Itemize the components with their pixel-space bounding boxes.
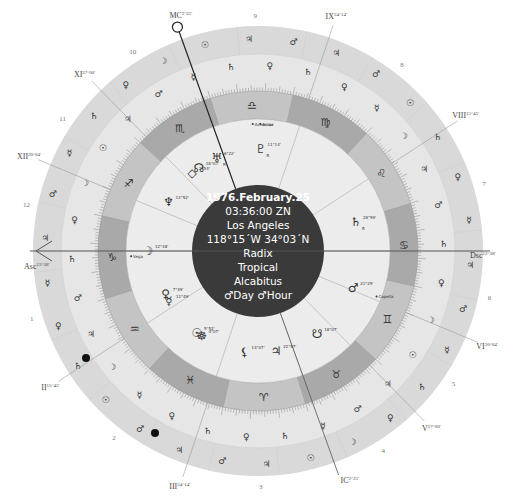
planet-degree: 11°14' — [268, 142, 281, 147]
planet-degree: 12°38' — [155, 244, 168, 249]
outer-ring-glyph-icon: ♀ — [243, 432, 250, 442]
outer-ring-glyph-icon: ☿ — [45, 278, 51, 288]
outer-ring-glyph-icon: ☉ — [409, 350, 417, 360]
zodiac-taurus-icon: ♉ — [331, 368, 341, 381]
retrograde-marker: R — [223, 162, 226, 167]
fixed-star-vega: Vega — [133, 254, 143, 259]
house-number-6: 6 — [488, 294, 492, 302]
planet-degree: 22°57' — [283, 344, 296, 349]
zodiac-gemini-icon: ♊ — [382, 313, 392, 326]
outer-ring-glyph-icon: ♀ — [438, 278, 445, 288]
outer-ring-glyph-icon: ♂ — [459, 304, 467, 314]
planet-degree: 7°49' — [173, 287, 184, 292]
outer-ring-glyph-icon: ♄ — [227, 62, 235, 72]
house-number-3: 3 — [259, 483, 263, 491]
outer-ring-glyph-icon: ♃ — [263, 459, 271, 469]
outer-ring-glyph-icon: ♃ — [245, 34, 253, 44]
outer-ring-glyph-icon: ☉ — [99, 143, 107, 153]
house-number-9: 9 — [253, 12, 257, 20]
outer-ring-glyph-icon: ♄ — [204, 426, 212, 436]
planet-degree: 21°29' — [360, 281, 373, 286]
house-cusp-vi: VI20°04' — [476, 342, 497, 351]
outer-ring-glyph-icon: ♀ — [168, 411, 175, 421]
zodiac-capricorn-icon: ♑ — [107, 251, 117, 264]
mercury-icon: ☿ — [165, 294, 172, 308]
marker-dot-icon — [82, 354, 90, 362]
marker-dot-icon — [151, 429, 159, 437]
outer-ring-glyph-icon: ☽ — [400, 131, 408, 141]
outer-ring-glyph-icon: ☽ — [159, 56, 167, 66]
outer-ring-glyph-icon: ♄ — [304, 67, 312, 77]
house-number-11: 11 — [59, 115, 66, 123]
outer-ring-glyph-icon: ♃ — [332, 48, 340, 58]
jupiter-icon: ♃ — [271, 344, 282, 358]
outer-ring-glyph-icon: ♄ — [434, 132, 442, 142]
outer-ring-glyph-icon: ♄ — [281, 431, 289, 441]
house-cusp-iii: III24°14' — [169, 482, 190, 491]
house-number-2: 2 — [112, 434, 116, 442]
north-node-icon: ☊ — [193, 161, 204, 175]
outer-ring-glyph-icon: ☿ — [466, 215, 472, 225]
outer-ring-glyph-icon: ♀ — [122, 80, 129, 90]
zodiac-pisces-icon: ♓ — [185, 374, 195, 387]
house-number-12: 12 — [23, 201, 31, 209]
planet-degree: 6°22' — [224, 151, 235, 156]
outer-ring-glyph-icon: ♄ — [418, 382, 426, 392]
mc-marker-icon — [172, 22, 182, 32]
outer-ring-glyph-icon: ☿ — [137, 390, 143, 400]
outer-ring-glyph-icon: ☿ — [67, 148, 73, 158]
house-number-10: 10 — [129, 48, 137, 56]
house-number-4: 4 — [382, 447, 386, 455]
zodiac-leo-icon: ♌ — [376, 167, 386, 180]
house-cusp-viii: VIII15°45' — [452, 111, 479, 120]
outer-ring-glyph-icon: ♂ — [74, 293, 82, 303]
retrograde-marker: R — [267, 153, 270, 158]
zodiac-aquarius-icon: ♒ — [130, 323, 140, 336]
outer-ring-glyph-icon: ♀ — [55, 321, 62, 331]
outer-ring-glyph-icon: ♂ — [372, 69, 380, 79]
mars-icon: ♂ — [348, 281, 359, 295]
house-number-5: 5 — [452, 380, 456, 388]
outer-ring-glyph-icon: ♀ — [71, 215, 78, 225]
outer-ring-glyph-icon: ☿ — [374, 103, 380, 113]
house-cusp-xii: XII20°04' — [17, 152, 41, 161]
zodiac-sagittarius-icon: ♐ — [124, 177, 134, 190]
zodiac-virgo-icon: ♍ — [321, 116, 331, 129]
outer-ring-glyph-icon: ♀ — [266, 61, 273, 71]
outer-ring-glyph-icon: ☽ — [427, 315, 435, 325]
outer-ring-glyph-icon: ♄ — [68, 254, 76, 264]
saturn-icon: ♄ — [351, 215, 362, 229]
planet-degree: 11°49' — [176, 294, 189, 299]
outer-ring-glyph-icon: ♂ — [354, 404, 362, 414]
outer-ring-glyph-icon: ♂ — [154, 89, 162, 99]
outer-ring-glyph-icon: ♂ — [136, 424, 144, 434]
house-number-1: 1 — [30, 315, 34, 323]
house-cusp-ii: II15°45' — [41, 383, 59, 392]
outer-ring-glyph-icon: ☉ — [406, 98, 414, 108]
fixed-star-capella: Capella — [379, 294, 394, 299]
planet-degree: 13°52' — [176, 195, 189, 200]
planet-degree: 18°07' — [324, 327, 337, 332]
mc-label: MC2°25' — [169, 11, 192, 20]
outer-ring-glyph-icon: ♃ — [421, 164, 429, 174]
astrology-chart-wheel: ♈♉♊♋♌♍♎♏♐♑♒♓ ♂♀♃♄☉☿☽♂♀♃♄☉☿☽♂♀♃♄☿♂♀♃♄☽☉☿♂… — [0, 0, 515, 502]
house-cusp-xi: XI27°00' — [74, 70, 95, 79]
outer-ring-glyph-icon: ☉ — [102, 395, 110, 405]
house-number-7: 7 — [482, 180, 486, 188]
planet-degree: 28°59' — [363, 215, 376, 220]
outer-ring-glyph-icon: ☽ — [349, 437, 357, 447]
outer-ring-glyph-icon: ♄ — [90, 111, 98, 121]
outer-ring-glyph-icon: ♂ — [290, 37, 298, 47]
wheel-icon: ☸ — [196, 329, 207, 343]
south-node-icon: ☋ — [312, 327, 323, 341]
outer-ring-glyph-icon: ☉ — [307, 453, 315, 463]
outer-ring-glyph-icon: ♀ — [387, 413, 394, 423]
ic-label: IC2°25' — [341, 476, 359, 485]
outer-ring-glyph-icon: ♀ — [341, 82, 348, 92]
outer-ring-glyph-icon: ♃ — [87, 329, 95, 339]
outer-ring-glyph-icon: ♀ — [454, 172, 461, 182]
outer-ring-glyph-icon: ♂ — [49, 189, 57, 199]
retrograde-marker: R — [362, 226, 365, 231]
outer-ring-glyph-icon: ☉ — [201, 40, 209, 50]
outer-ring-glyph-icon: ☿ — [444, 345, 450, 355]
